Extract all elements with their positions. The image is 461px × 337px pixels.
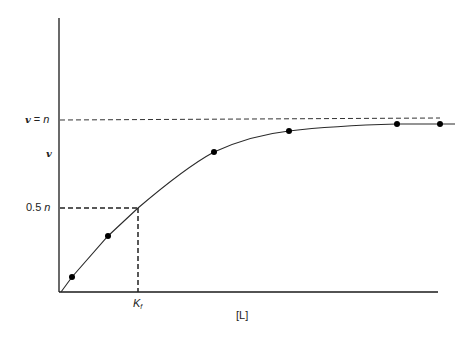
data-point	[286, 128, 292, 134]
f-subscript: f	[140, 303, 142, 310]
n-symbol: n	[44, 201, 50, 213]
equals-sign: =	[31, 113, 44, 125]
y-max-label: v = n	[25, 113, 49, 125]
data-point	[69, 274, 75, 280]
n-symbol: n	[43, 113, 49, 125]
data-point	[437, 121, 443, 127]
y-half-label: 0.5 n	[26, 201, 50, 213]
data-point	[211, 149, 217, 155]
saturation-line	[60, 118, 440, 120]
binding-curve-chart	[0, 0, 461, 337]
x-axis-label: [L]	[236, 309, 248, 321]
data-point	[105, 233, 111, 239]
data-points	[69, 121, 443, 280]
kf-label: Kf	[133, 297, 142, 310]
half-value: 0.5	[26, 201, 44, 213]
y-axis-label: v	[46, 148, 52, 159]
data-point	[394, 121, 400, 127]
